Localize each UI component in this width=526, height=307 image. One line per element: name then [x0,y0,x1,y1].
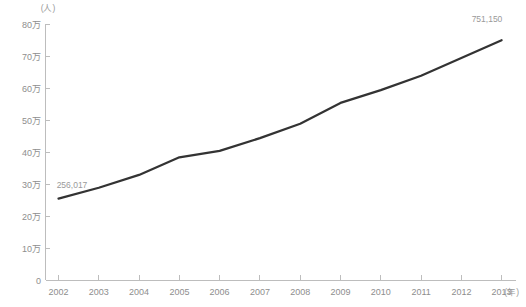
x-tick-label-2008: 2008 [290,287,310,297]
x-tick-label-2005: 2005 [169,287,189,297]
chart-canvas: (人) 80万 70万 60万 50万 40万 30万 20万 10万 0 [0,0,526,307]
x-tick-label-2007: 2007 [250,287,270,297]
line-chart: (人) 80万 70万 60万 50万 40万 30万 20万 10万 0 [0,0,526,307]
y-tick-label-50: 50万 [22,116,41,126]
x-tick-label-2004: 2004 [129,287,149,297]
x-tick-label-2011: 2011 [411,287,430,297]
y-tick-label-30: 30万 [22,180,41,190]
series-line-path [59,40,502,198]
y-tick-label-10: 10万 [22,244,41,254]
first-point-value-label: 256,017 [57,180,88,190]
x-tick-label-2006: 2006 [210,287,230,297]
x-tick-label-2009: 2009 [330,287,350,297]
x-tick-label-2002: 2002 [48,287,68,297]
x-axis-unit-label: (年) [504,287,519,297]
y-tick-label-60: 60万 [22,84,41,94]
y-tick-label-20: 20万 [22,212,41,222]
last-point-value-label: 751,150 [472,14,503,24]
y-tick-label-0: 0 [36,276,41,286]
x-tick-label-2012: 2012 [451,287,471,297]
x-tick-label-2010: 2010 [371,287,391,297]
y-tick-label-40: 40万 [22,148,41,158]
x-tick-label-2003: 2003 [89,287,109,297]
y-axis-unit-label: (人) [41,3,56,13]
y-tick-label-70: 70万 [22,52,41,62]
y-tick-label-80: 80万 [22,20,41,30]
